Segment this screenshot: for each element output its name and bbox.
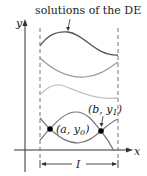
y-axis bbox=[23, 19, 28, 172]
boundary-point-b-y1 bbox=[98, 128, 104, 134]
x-axis-label: x bbox=[134, 145, 141, 158]
solution-curve-2 bbox=[40, 58, 118, 77]
point-label-a-y0: (a, y0) bbox=[56, 123, 89, 137]
interval-label: I bbox=[75, 158, 81, 171]
solution-curve-1 bbox=[40, 32, 118, 55]
title-pointer-arrow bbox=[66, 19, 70, 31]
point-b-pointer-arrow bbox=[100, 116, 104, 127]
point-label-b-y1: (b, y1) bbox=[88, 103, 122, 117]
x-axis bbox=[14, 148, 133, 153]
y-axis-label: y bbox=[15, 17, 23, 30]
initial-point-a-y0 bbox=[47, 126, 53, 132]
diagram-title: solutions of the DE bbox=[35, 4, 141, 17]
solution-curve-3 bbox=[40, 85, 118, 98]
solution-curves-diagram: solutions of the DE y x (a, y0) (b, y1) bbox=[0, 0, 147, 176]
